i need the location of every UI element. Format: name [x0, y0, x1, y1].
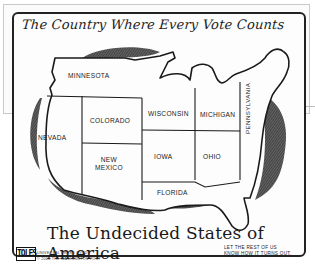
state-label-florida: FLORIDA — [157, 189, 188, 197]
artist-signature: TOLES — [16, 247, 36, 261]
caption-line2: KNOW HOW IT TURNS OUT. — [224, 251, 291, 256]
state-label-ohio: OHIO — [203, 153, 221, 161]
state-label-nevada: NEVADA — [38, 134, 66, 142]
state-label-iowa: IOWA — [154, 153, 173, 161]
new-mexico-line2: MEXICO — [95, 164, 123, 171]
cartoon-title: The Country Where Every Vote Counts — [21, 17, 285, 32]
state-label-minnesota: MINNESOTA — [68, 72, 109, 80]
credit-syndicate: UNIVERSAL PRESS SYND. — [37, 251, 89, 255]
state-label-new-mexico: NEW MEXICO — [95, 156, 123, 172]
new-mexico-line1: NEW — [101, 156, 117, 163]
caption-line1: LET THE REST OF US — [224, 245, 277, 250]
state-label-michigan: MICHIGAN — [200, 111, 235, 119]
state-label-colorado: COLORADO — [90, 117, 130, 125]
state-label-wisconsin: WISCONSIN — [148, 110, 189, 118]
map-shadow-top — [82, 47, 160, 58]
caption-note: LET THE REST OF US KNOW HOW IT TURNS OUT… — [224, 245, 291, 257]
state-label-pennsylvania: PENNSYLVANIA — [244, 83, 251, 134]
credit-copyright: © 2004 THE WASHINGTON POST — [37, 257, 101, 261]
